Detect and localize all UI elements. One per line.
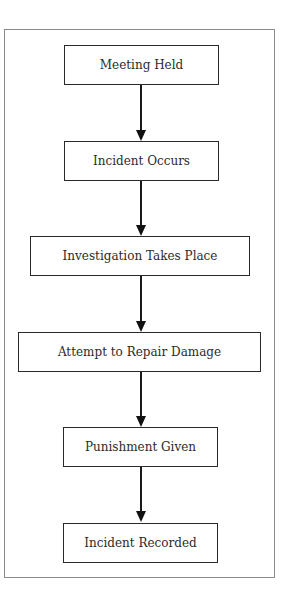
arrowhead-down-icon bbox=[136, 321, 146, 332]
flow-node-investigation-takes-place: Investigation Takes Place bbox=[30, 236, 250, 276]
flow-node-meeting-held: Meeting Held bbox=[64, 45, 219, 85]
flow-edge-5 bbox=[140, 467, 142, 512]
flow-node-attempt-to-repair-damage: Attempt to Repair Damage bbox=[18, 332, 261, 372]
arrowhead-down-icon bbox=[136, 225, 146, 236]
flow-edge-1 bbox=[140, 85, 142, 131]
flow-node-incident-recorded: Incident Recorded bbox=[63, 523, 218, 563]
node-label: Investigation Takes Place bbox=[63, 249, 218, 263]
flow-edge-4 bbox=[140, 372, 142, 417]
flow-edge-3 bbox=[140, 276, 142, 322]
node-label: Punishment Given bbox=[85, 440, 196, 454]
node-label: Incident Recorded bbox=[84, 536, 196, 550]
node-label: Meeting Held bbox=[100, 58, 183, 72]
arrowhead-down-icon bbox=[136, 416, 146, 427]
flow-node-incident-occurs: Incident Occurs bbox=[64, 141, 219, 181]
flow-node-punishment-given: Punishment Given bbox=[63, 427, 218, 467]
flow-edge-2 bbox=[140, 181, 142, 226]
arrowhead-down-icon bbox=[136, 130, 146, 141]
arrowhead-down-icon bbox=[136, 511, 146, 522]
node-label: Incident Occurs bbox=[93, 154, 190, 168]
node-label: Attempt to Repair Damage bbox=[58, 345, 221, 359]
